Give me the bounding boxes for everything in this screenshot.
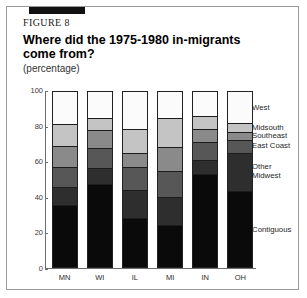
bar-segment[interactable]: [193, 129, 217, 142]
x-tick-label: IN: [190, 273, 220, 282]
bar-segment[interactable]: [88, 118, 112, 131]
bar-segment[interactable]: [123, 218, 147, 267]
stacked-bar[interactable]: [192, 91, 218, 268]
legend-item-other-midwest: Other Midwest: [252, 162, 281, 180]
y-tick: 100: [21, 91, 51, 92]
bar-segment[interactable]: [193, 116, 217, 129]
stacked-bar[interactable]: [227, 91, 253, 268]
y-tick-label: 100: [25, 86, 43, 95]
y-tick-label: 0: [25, 264, 43, 273]
bar-segment[interactable]: [53, 167, 77, 187]
bar-segment[interactable]: [123, 129, 147, 152]
x-tick-label: WI: [85, 273, 115, 282]
legend-item-contiguous: Contiguous: [252, 225, 291, 234]
bar-segment[interactable]: [123, 92, 147, 129]
stacked-bar[interactable]: [52, 91, 78, 268]
y-tick-label: 40: [25, 193, 43, 202]
bar-segment[interactable]: [88, 148, 112, 168]
bar-segment[interactable]: [88, 168, 112, 184]
y-tick: 20: [21, 233, 51, 234]
figure-label: FIGURE 8: [23, 17, 70, 28]
bar-segment[interactable]: [228, 140, 252, 153]
bar-segment[interactable]: [193, 174, 217, 267]
bar-segment[interactable]: [228, 153, 252, 191]
y-tick-label: 20: [25, 228, 43, 237]
y-tick: 40: [21, 198, 51, 199]
x-tick-label: MI: [155, 273, 185, 282]
y-tick-mark: [45, 269, 48, 270]
bar-segment[interactable]: [228, 92, 252, 123]
y-tick: 0: [21, 269, 51, 270]
y-tick-mark: [45, 91, 48, 92]
stacked-bar[interactable]: [157, 91, 183, 268]
bar-segment[interactable]: [158, 92, 182, 118]
y-tick-mark: [45, 162, 48, 163]
bar-segment[interactable]: [158, 147, 182, 170]
bar-segment[interactable]: [123, 167, 147, 190]
figure-top-rule: [29, 7, 85, 14]
bar-segment[interactable]: [53, 187, 77, 205]
bar-segment[interactable]: [53, 92, 77, 124]
legend-item-southeast: Southeast: [252, 131, 287, 140]
bar-segment[interactable]: [158, 118, 182, 148]
y-axis-line: [45, 91, 46, 269]
bar-segment[interactable]: [158, 225, 182, 267]
stacked-bar[interactable]: [87, 91, 113, 268]
bar-segment[interactable]: [53, 205, 77, 267]
bar-segment[interactable]: [193, 142, 217, 160]
y-tick: 80: [21, 127, 51, 128]
legend-item-east-coast: East Coast: [252, 141, 290, 150]
y-tick-mark: [45, 233, 48, 234]
bar-segment[interactable]: [88, 184, 112, 267]
bar-segment[interactable]: [228, 123, 252, 133]
bar-segment[interactable]: [158, 171, 182, 198]
bar-segment[interactable]: [123, 153, 147, 168]
chart-legend: WestMidsouthSoutheastEast CoastOther Mid…: [252, 85, 307, 283]
y-tick: 60: [21, 162, 51, 163]
y-tick-label: 60: [25, 157, 43, 166]
bar-segment[interactable]: [88, 130, 112, 148]
legend-item-west: West: [252, 103, 270, 112]
y-tick-mark: [45, 198, 48, 199]
x-tick-label: IL: [120, 273, 150, 282]
chart-plot-area: 020406080100 MNWIILMIINOH: [21, 85, 289, 283]
page-title: Where did the 1975-1980 in-migrants come…: [23, 33, 273, 61]
figure-subtitle: (percentage): [23, 63, 80, 74]
chart-axes: 020406080100 MNWIILMIINOH: [45, 91, 256, 269]
bar-segment[interactable]: [193, 92, 217, 116]
y-tick-label: 80: [25, 122, 43, 131]
x-tick-label: MN: [50, 273, 80, 282]
bar-segment[interactable]: [193, 160, 217, 175]
x-axis-line: [45, 268, 256, 269]
bar-segment[interactable]: [53, 124, 77, 145]
bar-segment[interactable]: [53, 146, 77, 167]
bar-segment[interactable]: [88, 92, 112, 118]
stacked-bar[interactable]: [122, 91, 148, 268]
x-tick-label: OH: [225, 273, 255, 282]
bar-segment[interactable]: [158, 197, 182, 225]
y-tick-mark: [45, 127, 48, 128]
bar-segment[interactable]: [123, 190, 147, 218]
figure-card: FIGURE 8 Where did the 1975-1980 in-migr…: [6, 6, 299, 290]
bar-segment[interactable]: [228, 132, 252, 140]
bar-segment[interactable]: [228, 191, 252, 267]
